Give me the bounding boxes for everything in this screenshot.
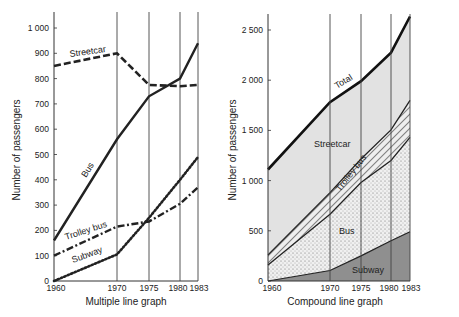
right-ytick-500: 500 [249, 226, 263, 236]
right-ytick-1000: 1 000 [242, 176, 264, 186]
right-chart-title: Compound line graph [287, 296, 383, 307]
right-xtick-1975: 1975 [352, 283, 371, 293]
left-ytick-700: 700 [35, 99, 49, 109]
subway-area-label: Subway [352, 265, 385, 275]
left-ytick-600: 600 [35, 124, 49, 134]
left-ytick-800: 800 [35, 74, 49, 84]
left-xtick-1983: 1983 [190, 283, 209, 293]
left-xtick-1975: 1975 [140, 283, 159, 293]
right-ytick-2500: 2 500 [242, 25, 264, 35]
chart-canvas: 0 100 200 300 400 500 600 700 800 900 1 … [0, 0, 459, 317]
left-xtick-1980: 1980 [169, 283, 188, 293]
multiple-line-graph: 0 100 200 300 400 500 600 700 800 900 1 … [11, 12, 209, 307]
left-chart-title: Multiple line graph [85, 296, 166, 307]
right-ytick-2000: 2 000 [242, 75, 264, 85]
right-xtick-1980: 1980 [380, 283, 399, 293]
left-ytick-400: 400 [35, 175, 49, 185]
left-ytick-200: 200 [35, 225, 49, 235]
left-y-label: Number of passengers [11, 99, 22, 200]
right-xtick-1983: 1983 [402, 283, 421, 293]
right-xtick-1970: 1970 [321, 283, 340, 293]
right-xtick-1960: 1960 [263, 283, 282, 293]
left-ytick-900: 900 [35, 48, 49, 58]
compound-line-graph: 0 500 1 000 1 500 2 000 2 500 1960 1970 … [227, 14, 421, 307]
left-ytick-300: 300 [35, 200, 49, 210]
left-ytick-500: 500 [35, 150, 49, 160]
trolley-bus-label: Trolley bus [64, 219, 109, 242]
bus-line [54, 43, 198, 240]
streetcar-area-label: Streetcar [314, 139, 351, 149]
left-xtick-1960: 1960 [47, 283, 66, 293]
right-y-label: Number of passengers [227, 99, 238, 200]
streetcar-label: Streetcar [69, 44, 107, 59]
left-xtick-1970: 1970 [108, 283, 127, 293]
left-ytick-100: 100 [35, 251, 49, 261]
left-ytick-1000: 1 000 [28, 23, 50, 33]
bus-area-label: Bus [339, 226, 355, 236]
right-ytick-1500: 1 500 [242, 125, 264, 135]
